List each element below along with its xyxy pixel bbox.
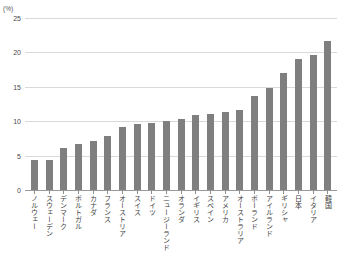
x-axis-tick bbox=[269, 190, 270, 194]
bar[interactable] bbox=[178, 119, 185, 190]
bar-series bbox=[25, 18, 337, 190]
bar-chart: (%) 0510152025 ノルウェースウェーデンデンマークポルトガルカナダフ… bbox=[0, 0, 343, 264]
x-axis-tick bbox=[254, 190, 255, 194]
tick-slot bbox=[42, 190, 57, 194]
label-slot: 韓国 bbox=[320, 195, 335, 263]
tick-slot bbox=[86, 190, 101, 194]
bar-slot bbox=[262, 18, 277, 190]
label-slot: イギリス bbox=[188, 195, 203, 263]
bar[interactable] bbox=[75, 144, 82, 190]
x-axis-category-label: 日本 bbox=[295, 195, 303, 263]
bar-slot bbox=[100, 18, 115, 190]
label-slot: オーストラリア bbox=[232, 195, 247, 263]
label-slot: ドイツ bbox=[144, 195, 159, 263]
bar[interactable] bbox=[207, 114, 214, 190]
bar-slot bbox=[203, 18, 218, 190]
label-slot: スウェーデン bbox=[42, 195, 57, 263]
x-axis-tick bbox=[78, 190, 79, 194]
x-axis-labels: ノルウェースウェーデンデンマークポルトガルカナダフランスオーストリアスイスドイツ… bbox=[25, 195, 337, 263]
x-axis-tick bbox=[93, 190, 94, 194]
y-axis-tick-label: 25 bbox=[1, 15, 21, 22]
bar[interactable] bbox=[266, 88, 273, 190]
bar[interactable] bbox=[134, 124, 141, 190]
bar[interactable] bbox=[310, 55, 317, 190]
x-axis-category-label: フランス bbox=[104, 195, 112, 263]
tick-slot bbox=[218, 190, 233, 194]
x-axis-tick bbox=[181, 190, 182, 194]
bar[interactable] bbox=[104, 136, 111, 190]
tick-slot bbox=[306, 190, 321, 194]
x-axis-tick bbox=[239, 190, 240, 194]
label-slot: ポルトガル bbox=[71, 195, 86, 263]
bar-slot bbox=[159, 18, 174, 190]
x-axis-category-label: ギリシャ bbox=[280, 195, 288, 263]
bar-slot bbox=[188, 18, 203, 190]
bar-slot bbox=[71, 18, 86, 190]
bar-slot bbox=[130, 18, 145, 190]
bar[interactable] bbox=[236, 110, 243, 190]
x-axis-category-label: オーストリア bbox=[119, 195, 127, 263]
x-axis-category-label: アメリカ bbox=[221, 195, 229, 263]
label-slot: アイルランド bbox=[262, 195, 277, 263]
y-axis-labels: 0510152025 bbox=[0, 18, 21, 190]
y-axis-tick-label: 10 bbox=[1, 118, 21, 125]
bar[interactable] bbox=[60, 148, 67, 190]
tick-slot bbox=[144, 190, 159, 194]
y-axis-tick-label: 20 bbox=[1, 49, 21, 56]
bar[interactable] bbox=[324, 41, 331, 190]
bar-slot bbox=[306, 18, 321, 190]
y-axis-tick-label: 15 bbox=[1, 83, 21, 90]
tick-slot bbox=[203, 190, 218, 194]
y-axis-tick-label: 5 bbox=[1, 152, 21, 159]
x-axis-tick bbox=[195, 190, 196, 194]
tick-slot bbox=[159, 190, 174, 194]
x-axis-category-label: スペイン bbox=[207, 195, 215, 263]
tick-slot bbox=[320, 190, 335, 194]
bar[interactable] bbox=[31, 160, 38, 190]
tick-slot bbox=[291, 190, 306, 194]
x-axis-tick bbox=[151, 190, 152, 194]
bar[interactable] bbox=[46, 160, 53, 190]
x-axis-tick bbox=[166, 190, 167, 194]
bar[interactable] bbox=[280, 73, 287, 190]
x-axis-tick bbox=[122, 190, 123, 194]
x-axis-ticks bbox=[25, 190, 337, 194]
bar[interactable] bbox=[90, 141, 97, 190]
x-axis-category-label: カナダ bbox=[89, 195, 97, 263]
x-axis-category-label: ドイツ bbox=[148, 195, 156, 263]
bar[interactable] bbox=[192, 115, 199, 190]
bar[interactable] bbox=[222, 112, 229, 190]
x-axis-category-label: スイス bbox=[133, 195, 141, 263]
x-axis-tick bbox=[327, 190, 328, 194]
x-axis-category-label: イギリス bbox=[192, 195, 200, 263]
bar-slot bbox=[232, 18, 247, 190]
x-axis-category-label: ポーランド bbox=[251, 195, 259, 263]
tick-slot bbox=[71, 190, 86, 194]
x-axis-category-label: ポルトガル bbox=[75, 195, 83, 263]
bar-slot bbox=[86, 18, 101, 190]
x-axis-tick bbox=[210, 190, 211, 194]
label-slot: デンマーク bbox=[56, 195, 71, 263]
x-axis-tick bbox=[49, 190, 50, 194]
x-axis-tick bbox=[283, 190, 284, 194]
label-slot: フランス bbox=[100, 195, 115, 263]
bar[interactable] bbox=[295, 59, 302, 190]
tick-slot bbox=[115, 190, 130, 194]
x-axis-category-label: ニュージーランド bbox=[163, 195, 171, 263]
tick-slot bbox=[247, 190, 262, 194]
tick-slot bbox=[174, 190, 189, 194]
x-axis-category-label: スウェーデン bbox=[45, 195, 53, 263]
bar[interactable] bbox=[251, 96, 258, 190]
bar[interactable] bbox=[119, 127, 126, 190]
tick-slot bbox=[232, 190, 247, 194]
bar-slot bbox=[276, 18, 291, 190]
bar[interactable] bbox=[163, 121, 170, 190]
bar[interactable] bbox=[148, 123, 155, 190]
x-axis-category-label: アイルランド bbox=[265, 195, 273, 263]
label-slot: ニュージーランド bbox=[159, 195, 174, 263]
x-axis-category-label: オランダ bbox=[177, 195, 185, 263]
bar-slot bbox=[27, 18, 42, 190]
bar-slot bbox=[144, 18, 159, 190]
x-axis-category-label: イタリア bbox=[309, 195, 317, 263]
tick-slot bbox=[100, 190, 115, 194]
